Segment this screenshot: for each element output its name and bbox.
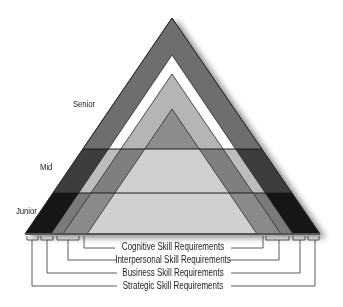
legend-business: Business Skill Requirements <box>93 267 253 278</box>
pyramid-body <box>25 18 320 234</box>
legend-strategic: Strategic Skill Requirements <box>93 280 253 291</box>
legend-interpersonal: Interpersonal Skill Requirements <box>93 254 253 265</box>
level-label-junior: Junior <box>16 205 37 216</box>
skill-pyramid-diagram: Senior Mid Junior Cognitive Skill Requir… <box>0 0 343 307</box>
level-label-mid: Mid <box>40 161 52 172</box>
legend-cognitive: Cognitive Skill Requirements <box>93 241 253 252</box>
level-label-senior: Senior <box>73 98 95 109</box>
